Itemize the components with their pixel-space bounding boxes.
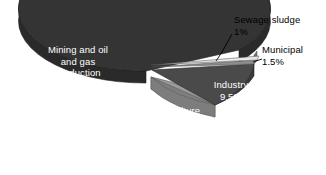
pie-chart-graphic bbox=[0, 0, 326, 175]
pie-chart: Mining and oil and gas production 75% Ag… bbox=[0, 0, 326, 175]
